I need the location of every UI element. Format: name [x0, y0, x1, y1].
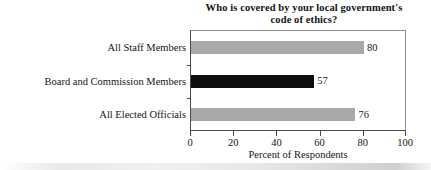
bar-value-all-staff-members: 80: [367, 41, 378, 55]
bar-all-staff-members[interactable]: [191, 41, 364, 54]
scan-artifact: [0, 163, 431, 170]
bar-all-elected-officials[interactable]: [191, 108, 355, 121]
bar-row: 76: [191, 98, 405, 132]
chart-title: Who is covered by your local government'…: [196, 2, 412, 26]
bar-board-and-commission-members[interactable]: [191, 75, 314, 88]
plot-area: 80 57 76: [190, 30, 406, 131]
bar-row: 80: [191, 31, 405, 65]
category-label-all-staff-members: All Staff Members: [0, 41, 186, 54]
bar-row: 57: [191, 65, 405, 99]
category-axis-labels: All Staff Members Board and Commission M…: [0, 30, 186, 131]
chart-figure: Who is covered by your local government'…: [0, 0, 431, 170]
category-label-board-and-commission-members: Board and Commission Members: [0, 75, 186, 88]
category-label-all-elected-officials: All Elected Officials: [0, 108, 186, 121]
bar-value-board-and-commission-members: 57: [317, 74, 328, 88]
bar-value-all-elected-officials: 76: [358, 108, 369, 122]
x-axis-title: Percent of Respondents: [190, 148, 406, 161]
x-axis: 0 20 40 60 80 100: [190, 131, 406, 147]
